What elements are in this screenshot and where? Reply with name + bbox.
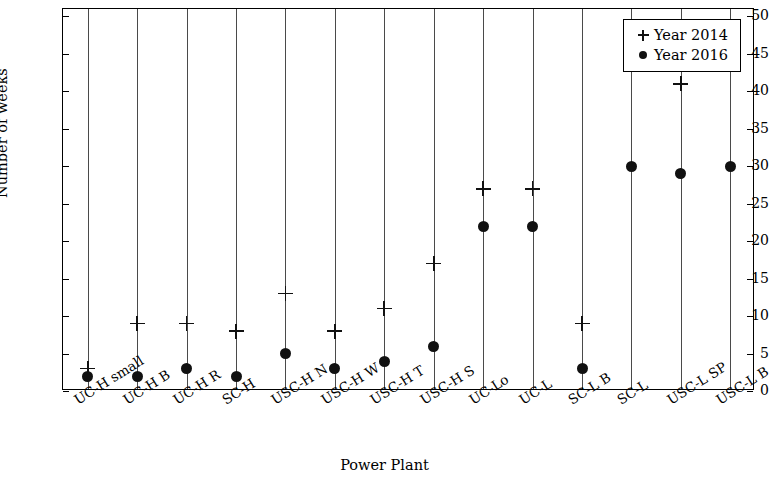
data-point — [675, 168, 686, 179]
data-point — [577, 363, 588, 374]
gridline — [187, 9, 188, 389]
y-tick-label: 5 — [715, 345, 769, 361]
y-tick — [63, 91, 69, 92]
y-tick — [63, 391, 69, 392]
data-point — [379, 356, 390, 367]
y-tick — [63, 204, 69, 205]
data-point — [130, 316, 145, 331]
y-tick-label: 40 — [715, 82, 769, 98]
plot-area: Year 2014 Year 2016 — [62, 8, 754, 390]
y-tick — [63, 241, 69, 242]
y-tick-label: 50 — [715, 7, 769, 23]
data-point — [426, 256, 441, 271]
y-tick — [63, 166, 69, 167]
data-point — [278, 286, 293, 301]
y-tick — [63, 129, 69, 130]
y-tick-label: 20 — [715, 232, 769, 248]
data-point — [327, 324, 342, 339]
gridline — [582, 9, 583, 389]
y-tick — [63, 16, 69, 17]
gridline — [434, 9, 435, 389]
y-tick-label: 10 — [715, 307, 769, 323]
data-point — [377, 301, 392, 316]
gridline — [483, 9, 484, 389]
data-point — [476, 181, 491, 196]
data-point — [673, 76, 688, 91]
chart-container: Number of weeks Year 2014 Year 2016 0510… — [0, 0, 769, 480]
y-tick-label: 35 — [715, 120, 769, 136]
y-tick — [63, 54, 69, 55]
legend-label: Year 2014 — [654, 25, 728, 45]
gridline — [384, 9, 385, 389]
dot-marker-icon — [632, 47, 654, 63]
y-tick-label: 25 — [715, 195, 769, 211]
gridline — [533, 9, 534, 389]
y-tick-label: 15 — [715, 270, 769, 286]
data-point — [525, 181, 540, 196]
x-axis-title: Power Plant — [0, 457, 769, 473]
data-point — [179, 316, 194, 331]
y-tick — [63, 354, 69, 355]
y-tick — [63, 279, 69, 280]
legend-item-year-2016: Year 2016 — [632, 45, 728, 65]
data-point — [527, 221, 538, 232]
data-point — [428, 341, 439, 352]
gridline — [137, 9, 138, 389]
plus-marker-icon — [632, 27, 654, 43]
data-point — [478, 221, 489, 232]
legend-item-year-2014: Year 2014 — [632, 25, 728, 45]
y-tick-label: 45 — [715, 45, 769, 61]
data-point — [575, 316, 590, 331]
data-point — [280, 348, 291, 359]
gridline — [285, 9, 286, 389]
data-point — [329, 363, 340, 374]
data-point — [181, 363, 192, 374]
y-axis-title: Number of weeks — [0, 68, 10, 198]
gridline — [88, 9, 89, 389]
y-tick-label: 30 — [715, 157, 769, 173]
y-tick — [63, 316, 69, 317]
data-point — [229, 324, 244, 339]
data-point — [626, 161, 637, 172]
